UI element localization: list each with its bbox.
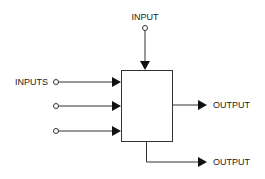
top-input: INPUT bbox=[132, 12, 160, 70]
input-2-terminal-icon bbox=[54, 104, 59, 109]
output-right-label: OUTPUT bbox=[213, 100, 251, 110]
input-1-terminal-icon bbox=[54, 80, 59, 85]
function-block bbox=[122, 71, 173, 142]
top-input-arrow-icon bbox=[140, 61, 150, 70]
top-input-label: INPUT bbox=[132, 12, 160, 22]
input-3-terminal-icon bbox=[54, 129, 59, 134]
left-inputs: INPUTS bbox=[15, 77, 121, 136]
top-input-terminal-icon bbox=[143, 26, 148, 31]
output-bottom-line bbox=[147, 142, 200, 163]
output-right: OUTPUT bbox=[173, 100, 251, 110]
output-right-arrow-icon bbox=[198, 100, 207, 110]
block-diagram: INPUT INPUTS OUTPUT OUTPUT bbox=[0, 0, 265, 179]
input-3-arrow-icon bbox=[112, 126, 121, 136]
output-bottom-arrow-icon bbox=[198, 157, 207, 167]
output-bottom: OUTPUT bbox=[147, 142, 251, 168]
input-2-arrow-icon bbox=[112, 101, 121, 111]
output-bottom-label: OUTPUT bbox=[213, 157, 251, 167]
left-inputs-label: INPUTS bbox=[15, 77, 48, 87]
input-1-arrow-icon bbox=[112, 77, 121, 87]
